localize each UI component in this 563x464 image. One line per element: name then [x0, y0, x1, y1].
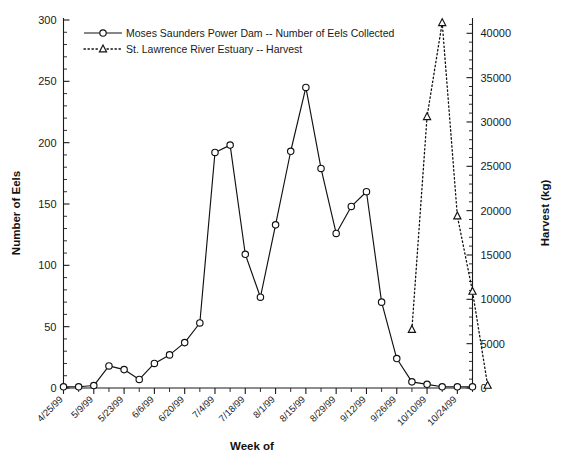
data-point-marker-circle [106, 363, 112, 369]
data-point-marker-circle [100, 30, 106, 36]
data-point-marker-circle [91, 382, 97, 388]
left-axis-tick-label: 100 [38, 259, 56, 271]
legend-entry-label: St. Lawrence River Estuary -- Harvest [126, 43, 302, 55]
chart-background [0, 0, 563, 464]
chart-figure: 050100150200250300 050001000015000200002… [0, 0, 563, 464]
left-axis-tick-label: 200 [38, 137, 56, 149]
right-axis-tick-label: 5000 [481, 338, 505, 350]
right-axis-tick-label: 20000 [481, 205, 512, 217]
data-point-marker-circle [333, 230, 339, 236]
y-axis-title: Number of Eels [10, 171, 22, 255]
data-point-marker-circle [378, 299, 384, 305]
data-point-marker-circle [121, 366, 127, 372]
data-point-marker-circle [409, 379, 415, 385]
left-axis-tick-label: 50 [44, 321, 56, 333]
right-axis-tick-label: 30000 [481, 116, 512, 128]
right-axis-tick-label: 35000 [481, 72, 512, 84]
data-point-marker-circle [363, 189, 369, 195]
data-point-marker-circle [151, 360, 157, 366]
data-point-marker-circle [394, 355, 400, 361]
y2-axis-title: Harvest (kg) [539, 180, 551, 247]
right-axis-tick-label: 40000 [481, 27, 512, 39]
data-point-marker-circle [227, 142, 233, 148]
data-point-marker-circle [257, 294, 263, 300]
data-point-marker-circle [318, 165, 324, 171]
data-point-marker-circle [272, 222, 278, 228]
right-axis-tick-label: 15000 [481, 249, 512, 261]
data-point-marker-circle [424, 381, 430, 387]
left-axis-tick-label: 250 [38, 75, 56, 87]
data-point-marker-circle [469, 384, 475, 390]
data-point-marker-circle [439, 384, 445, 390]
data-point-marker-circle [181, 339, 187, 345]
left-axis-tick-label: 0 [50, 382, 56, 394]
data-point-marker-circle [212, 149, 218, 155]
left-axis-tick-label: 300 [38, 14, 56, 26]
eel-collection-harvest-line-chart: 050100150200250300 050001000015000200002… [0, 0, 563, 464]
legend-entry-label: Moses Saunders Power Dam -- Number of Ee… [126, 27, 395, 39]
data-point-marker-circle [136, 376, 142, 382]
right-axis-tick-label: 10000 [481, 293, 512, 305]
data-point-marker-circle [303, 84, 309, 90]
data-point-marker-circle [454, 384, 460, 390]
data-point-marker-circle [75, 384, 81, 390]
data-point-marker-circle [242, 251, 248, 257]
x-axis-title: Week of [230, 440, 274, 452]
right-axis-tick-label: 25000 [481, 160, 512, 172]
data-point-marker-circle [166, 352, 172, 358]
data-point-marker-circle [288, 148, 294, 154]
data-point-marker-circle [197, 320, 203, 326]
left-axis-tick-label: 150 [38, 198, 56, 210]
data-point-marker-circle [348, 203, 354, 209]
data-point-marker-circle [60, 384, 66, 390]
